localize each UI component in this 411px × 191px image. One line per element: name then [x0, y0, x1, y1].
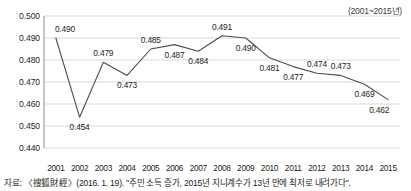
data-point-label: 0.477: [283, 72, 303, 82]
x-axis-tick-label: 2011: [285, 163, 302, 173]
y-axis-tick-label: 0.490: [2, 33, 40, 43]
data-point-label: 0.462: [369, 105, 389, 115]
x-axis-tick-label: 2013: [332, 163, 349, 173]
data-point-label: 0.484: [188, 56, 208, 66]
y-axis-tick-label: 0.460: [2, 99, 40, 109]
gini-coefficient-line-chart-figure: (2001~2015년) 0.5000.4900.4800.4700.4600.…: [0, 0, 411, 191]
x-axis-tick-label: 2008: [213, 163, 230, 173]
y-axis-tick-label: 0.470: [2, 77, 40, 87]
data-point-label: 0.491: [212, 22, 232, 32]
x-axis-tick-label: 2015: [379, 163, 396, 173]
x-axis-tick-label: 2003: [95, 163, 112, 173]
data-point-label: 0.454: [70, 122, 90, 132]
data-point-label: 0.473: [117, 80, 137, 90]
x-axis-tick-label: 2005: [142, 163, 159, 173]
source-note: 자료: 〈搜狐財經〉(2016. 1. 19). "주민 소득 증가, 2015…: [4, 176, 351, 188]
plot-area: 0.5000.4900.4800.4700.4600.4500.440 2001…: [0, 14, 411, 161]
data-point-label: 0.481: [259, 63, 279, 73]
data-point-label: 0.485: [141, 35, 161, 45]
data-point-label: 0.487: [165, 50, 185, 60]
chart-canvas: [0, 14, 411, 161]
data-point-label: 0.479: [93, 48, 113, 58]
x-axis-tick-label: 2007: [190, 163, 207, 173]
y-axis-tick-label: 0.440: [2, 143, 40, 153]
y-axis-tick-label: 0.500: [2, 11, 40, 21]
x-axis-tick-label: 2006: [166, 163, 183, 173]
data-point-label: 0.474: [307, 59, 327, 69]
x-axis-tick-label: 2004: [118, 163, 135, 173]
x-axis-tick-label: 2012: [308, 163, 325, 173]
data-point-label: 0.490: [55, 24, 75, 34]
x-axis-tick-label: 2001: [47, 163, 64, 173]
y-axis-tick-label: 0.480: [2, 55, 40, 65]
x-axis-tick-label: 2009: [237, 163, 254, 173]
data-point-label: 0.490: [236, 43, 256, 53]
x-axis-tick-label: 2014: [356, 163, 373, 173]
x-axis-tick-label: 2010: [261, 163, 278, 173]
data-point-label: 0.469: [354, 89, 374, 99]
x-axis-tick-label: 2002: [71, 163, 88, 173]
y-axis-tick-label: 0.450: [2, 121, 40, 131]
data-point-label: 0.473: [331, 61, 351, 71]
